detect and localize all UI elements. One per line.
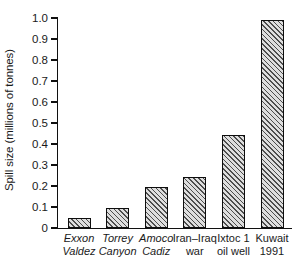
y-axis-tick-label: 0.9 bbox=[4, 33, 48, 45]
y-axis-tick bbox=[51, 227, 57, 228]
y-axis-tick-label: 0.2 bbox=[4, 180, 48, 192]
bar-iran-iraq-war bbox=[183, 177, 206, 228]
y-axis-tick bbox=[51, 80, 57, 81]
bar-exxon-valdez bbox=[68, 218, 91, 229]
y-axis-tick-label: 0.4 bbox=[4, 138, 48, 150]
y-axis-tick-label: 0.8 bbox=[4, 54, 48, 66]
plot-area bbox=[58, 18, 290, 228]
bar-kuwait-1991 bbox=[261, 20, 284, 228]
y-axis-tick bbox=[51, 59, 57, 60]
bar-ixtoc-1 bbox=[222, 135, 245, 228]
y-axis-tick bbox=[51, 185, 57, 186]
bar-torrey-canyon bbox=[106, 208, 129, 228]
x-axis-label-line1: Kuwait bbox=[255, 232, 288, 244]
x-axis-line bbox=[57, 228, 292, 229]
y-axis-tick bbox=[51, 17, 57, 18]
y-axis-tick bbox=[51, 122, 57, 123]
bar-chart: Spill size (millions of tonnes) 1.00.90.… bbox=[0, 0, 296, 267]
y-axis-tick bbox=[51, 143, 57, 144]
y-axis-tick-label: 0.5 bbox=[4, 117, 48, 129]
y-axis-tick-label: 0.7 bbox=[4, 75, 48, 87]
y-axis-tick-label: 0.3 bbox=[4, 159, 48, 171]
y-axis-tick-label: 0.1 bbox=[4, 201, 48, 213]
y-axis-tick-label: 0.6 bbox=[4, 96, 48, 108]
y-axis-tick bbox=[51, 101, 57, 102]
bar-amoco-cadiz bbox=[145, 187, 168, 228]
y-axis-tick bbox=[51, 164, 57, 165]
y-axis-tick-label: 1.0 bbox=[4, 12, 48, 24]
y-axis-tick bbox=[51, 38, 57, 39]
x-axis-label-line2: 1991 bbox=[232, 245, 296, 258]
x-axis-label-kuwait-1991: Kuwait1991 bbox=[232, 232, 296, 257]
y-axis-tick bbox=[51, 206, 57, 207]
